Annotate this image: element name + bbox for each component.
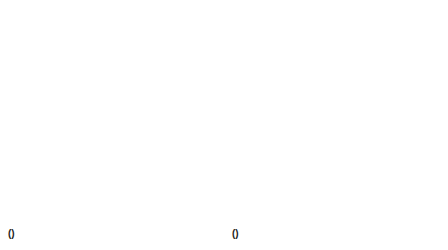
karel-world-figure: [0, 0, 448, 250]
caption-b: (): [232, 228, 238, 239]
caption-a: (): [8, 228, 14, 239]
